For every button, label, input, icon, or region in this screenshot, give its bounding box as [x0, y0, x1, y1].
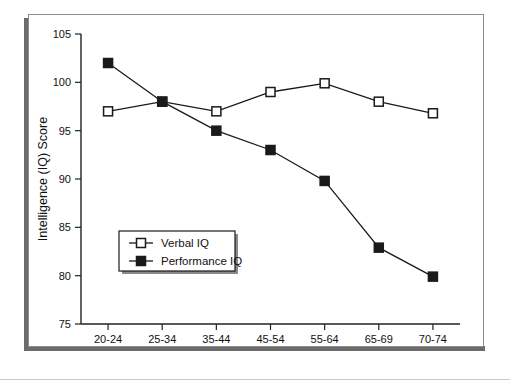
x-tick-label: 55-64 — [311, 333, 339, 345]
x-tick-label: 65-69 — [365, 333, 393, 345]
y-tick-label: 85 — [59, 221, 71, 233]
data-point[interactable] — [212, 107, 221, 116]
x-tick-label: 45-54 — [256, 333, 284, 345]
x-tick-label: 20-24 — [94, 333, 122, 345]
line-chart: 7580859095100105 20-2425-3435-4445-5455-… — [29, 15, 485, 348]
data-point[interactable] — [266, 146, 275, 155]
y-tick-label: 105 — [53, 28, 71, 40]
data-point[interactable] — [320, 79, 329, 88]
data-point[interactable] — [374, 97, 383, 106]
y-tick-label: 75 — [59, 318, 71, 330]
data-point[interactable] — [320, 176, 329, 185]
data-point[interactable] — [266, 88, 275, 97]
data-point[interactable] — [212, 126, 221, 135]
legend-label: Verbal IQ — [161, 237, 209, 249]
x-tick-label: 25-34 — [148, 333, 176, 345]
y-axis: 7580859095100105 — [53, 28, 81, 330]
data-point[interactable] — [104, 107, 113, 116]
data-point[interactable] — [104, 59, 113, 68]
y-tick-label: 100 — [53, 76, 71, 88]
x-axis: 20-2425-3435-4445-5455-6465-6970-74 — [81, 324, 460, 345]
y-axis-title: Intelligence (IQ) Score — [36, 117, 50, 241]
y-tick-label: 80 — [59, 270, 71, 282]
x-tick-label: 70-74 — [419, 333, 447, 345]
data-point[interactable] — [428, 109, 437, 118]
legend-sample-marker — [137, 239, 146, 248]
y-tick-label: 95 — [59, 125, 71, 137]
data-point[interactable] — [374, 243, 383, 252]
chart-legend: Verbal IQPerformance IQ — [119, 231, 242, 274]
figure-frame: 7580859095100105 20-2425-3435-4445-5455-… — [28, 14, 484, 347]
data-point[interactable] — [428, 272, 437, 281]
y-tick-label: 90 — [59, 173, 71, 185]
data-point[interactable] — [158, 97, 167, 106]
legend-label: Performance IQ — [161, 255, 242, 267]
page-bottom-rule — [0, 379, 510, 380]
x-tick-label: 35-44 — [202, 333, 230, 345]
legend-sample-marker — [137, 257, 146, 266]
